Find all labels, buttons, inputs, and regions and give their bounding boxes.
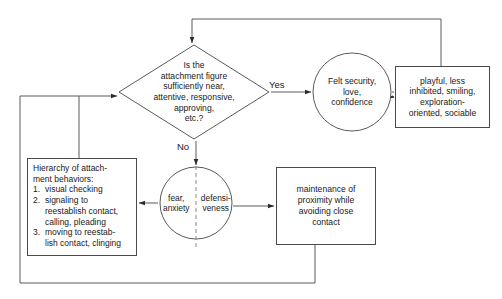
hierarchy-heading-2: ment behaviors: — [33, 174, 121, 185]
playful-line-2: inhibited, smiling, — [409, 86, 476, 97]
defensiveness-line-2: veness — [199, 203, 234, 214]
list-item: 3. moving to reestab- lish contact, clin… — [33, 227, 121, 248]
felt-line-2: love, — [316, 87, 388, 98]
playful-line-3: exploration- — [409, 97, 476, 108]
fear-defensiveness-node: fear, anxiety defensi- veness — [159, 166, 233, 240]
item-number: 2. — [33, 195, 40, 206]
item-line: moving to reestab- — [45, 227, 115, 237]
maintenance-line-4: contact — [297, 217, 356, 228]
item-number: 1. — [33, 184, 40, 195]
item-number: 3. — [33, 227, 40, 238]
maintenance-proximity-box: maintenance of proximity while avoiding … — [276, 167, 376, 245]
list-item: 2. signaling to reestablish contact, cal… — [33, 195, 121, 227]
decision-line-5: approving, — [128, 103, 260, 114]
playful-line-1: playful, less — [409, 76, 476, 87]
circle-text: fear, anxiety defensi- veness — [159, 193, 233, 214]
felt-security-node: Felt security, love, confidence — [312, 52, 392, 132]
defensiveness-text: defensi- veness — [196, 193, 234, 214]
maintenance-line-2: proximity while — [297, 195, 356, 206]
hierarchy-text: Hierarchy of attach- ment behaviors: 1. … — [33, 163, 121, 249]
item-line: signaling to — [45, 195, 88, 205]
hierarchy-heading-1: Hierarchy of attach- — [33, 163, 121, 174]
fear-anxiety-text: fear, anxiety — [159, 193, 196, 214]
maintenance-line-1: maintenance of — [297, 184, 356, 195]
fear-line-2: anxiety — [159, 203, 194, 214]
item-line: visual checking — [45, 184, 103, 194]
decision-text: Is the attachment figure sufficiently ne… — [128, 60, 260, 124]
felt-line-3: confidence — [316, 97, 388, 108]
felt-line-1: Felt security, — [316, 76, 388, 87]
decision-line-6: etc.? — [128, 113, 260, 124]
item-line: calling, pleading — [45, 217, 106, 227]
edge-label-yes: Yes — [268, 79, 286, 90]
decision-line-3: sufficiently near, — [128, 81, 260, 92]
decision-line-2: attachment figure — [128, 71, 260, 82]
hierarchy-list: 1. visual checking 2. signaling to reest… — [33, 184, 121, 248]
item-line: reestablish contact, — [45, 206, 118, 216]
decision-line-4: attentive, responsive, — [128, 92, 260, 103]
flowchart-canvas: Is the attachment figure sufficiently ne… — [0, 0, 502, 299]
edge-label-no: No — [176, 141, 190, 152]
maintenance-text: maintenance of proximity while avoiding … — [297, 184, 356, 229]
playful-line-4: oriented, sociable — [409, 108, 476, 119]
item-line: lish contact, clinging — [45, 238, 121, 248]
playful-outcomes-box: playful, less inhibited, smiling, explor… — [395, 66, 490, 128]
hierarchy-box: Hierarchy of attach- ment behaviors: 1. … — [27, 158, 137, 256]
felt-security-text: Felt security, love, confidence — [316, 76, 388, 108]
playful-text: playful, less inhibited, smiling, explor… — [409, 76, 476, 119]
maintenance-line-3: avoiding close — [297, 206, 356, 217]
decision-node: Is the attachment figure sufficiently ne… — [118, 44, 270, 140]
list-item: 1. visual checking — [33, 184, 121, 195]
decision-line-1: Is the — [128, 60, 260, 71]
fear-line-1: fear, — [159, 193, 194, 204]
defensiveness-line-1: defensi- — [199, 193, 234, 204]
